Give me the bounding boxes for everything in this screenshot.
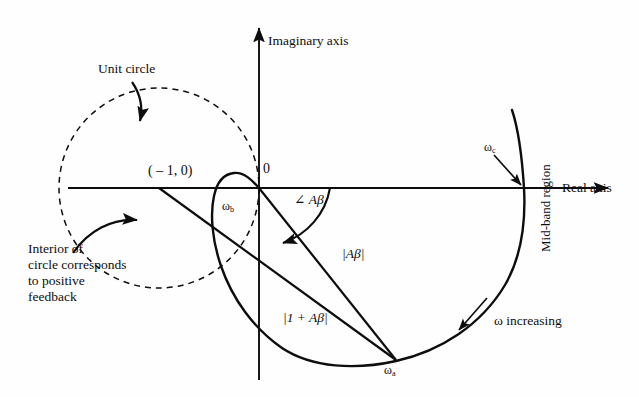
omega-increasing-label: ω increasing (494, 313, 562, 329)
omega-b-symbol: ω (222, 199, 230, 213)
omega-c-label: ωc (484, 140, 496, 155)
minus-one-point-label: ( – 1, 0) (148, 163, 192, 180)
vector-magnitude-ab (259, 188, 396, 360)
real-axis-label: Real axis (562, 180, 612, 196)
omega-b-subscript: b (230, 205, 234, 214)
midband-region-label: Mid-band region (538, 164, 553, 252)
omega-increasing-symbol: ω (494, 313, 503, 328)
unit-circle-label: Unit circle (98, 61, 155, 77)
interior-note-line-1: Interior of (28, 241, 127, 257)
interior-note-line-2: circle corresponds (28, 257, 127, 273)
omega-increasing-text: increasing (503, 313, 562, 328)
interior-note: Interior of circle corresponds to positi… (28, 241, 127, 305)
vector-magnitude-one-plus-ab (159, 188, 396, 360)
omega-b-label: ωb (222, 199, 234, 214)
interior-note-line-4: feedback (28, 289, 127, 305)
unit-circle-leader (132, 82, 141, 121)
omega-a-subscript: a (392, 369, 396, 378)
interior-note-line-3: to positive (28, 273, 127, 289)
magnitude-one-plus-ab-label: |1 + Aβ| (283, 310, 328, 326)
angle-ab-label: ∠ Aβ (294, 192, 324, 208)
nyquist-diagram: Imaginary axis Real axis 0 ( – 1, 0) Uni… (0, 0, 639, 397)
origin-label: 0 (263, 161, 270, 178)
omega-c-leader (494, 155, 521, 185)
magnitude-ab-label: |Aβ| (342, 246, 364, 262)
angle-ab-text: Aβ (309, 192, 324, 207)
omega-c-symbol: ω (484, 140, 492, 154)
imaginary-axis-label: Imaginary axis (268, 33, 349, 49)
omega-c-subscript: c (492, 146, 496, 155)
omega-a-label: ωa (384, 363, 396, 378)
omega-a-symbol: ω (384, 363, 392, 377)
angle-symbol: ∠ (294, 192, 309, 207)
